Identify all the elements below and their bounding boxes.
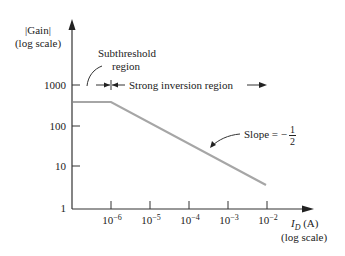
x-tick-exp: −5 (152, 213, 161, 222)
x-axis-unit: (A) (300, 217, 318, 229)
x-axis-arrow-icon (302, 206, 314, 213)
y-tick-label-10: 10 (20, 160, 66, 172)
region-arrow-right-icon (104, 83, 110, 88)
subthreshold-label-line1: Subthreshold (98, 47, 156, 59)
x-tick-base: 10 (180, 214, 191, 226)
x-tick-label-1e-6: 10−6 (96, 214, 128, 226)
slope-pointer-arrow-icon (210, 141, 216, 148)
x-tick-exp: −3 (230, 213, 239, 222)
strong-inversion-arrow-icon (259, 82, 267, 88)
strong-inversion-label: Strong inversion region (129, 79, 233, 91)
y-axis-arrow-icon (69, 19, 76, 30)
x-axis-label-line2: (log scale) (281, 231, 327, 243)
x-tick-exp: −6 (113, 213, 122, 222)
slope-denominator: 2 (289, 136, 296, 147)
y-tick-label-1000: 1000 (20, 79, 66, 91)
gain-curve (73, 102, 266, 185)
slope-numerator: 1 (289, 124, 296, 136)
slope-annotation: Slope = −12 (244, 124, 296, 147)
x-tick-exp: −2 (269, 213, 278, 222)
x-tick-base: 10 (141, 214, 152, 226)
x-tick-label-1e-4: 10−4 (174, 214, 206, 226)
slope-label: Slope = − (244, 128, 287, 140)
x-tick-base: 10 (258, 214, 269, 226)
y-axis-label-line2: (log scale) (6, 37, 70, 49)
x-tick-base: 10 (219, 214, 230, 226)
x-tick-exp: −4 (191, 213, 200, 222)
x-tick-label-1e-3: 10−3 (213, 214, 245, 226)
y-axis-label-line1: |Gain| (8, 24, 68, 36)
y-tick-label-1: 1 (20, 202, 66, 214)
y-tick-label-100: 100 (20, 120, 66, 132)
x-tick-label-1e-2: 10−2 (252, 214, 284, 226)
region-arrow-left-icon (112, 83, 118, 88)
subthreshold-pointer (87, 66, 102, 86)
slope-pointer (212, 134, 240, 146)
x-tick-label-1e-5: 10−5 (135, 214, 167, 226)
slope-fraction: 12 (289, 124, 296, 147)
subthreshold-label-line2: region (112, 60, 140, 72)
x-tick-base: 10 (102, 214, 113, 226)
